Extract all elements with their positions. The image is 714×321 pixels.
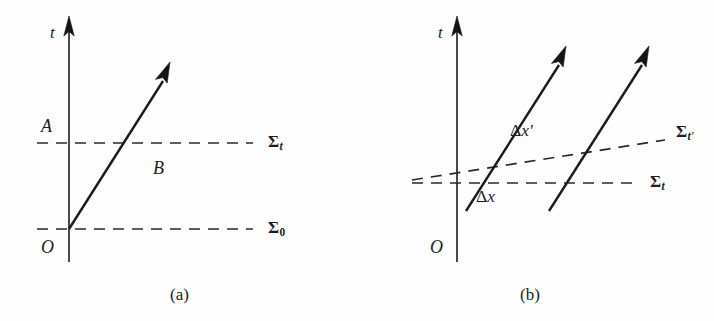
panel-b-origin-label: O (430, 238, 443, 256)
panel-a-point-label-B: B (153, 159, 164, 177)
sigma-glyph-a1: Σ (268, 132, 279, 151)
interval-label-delta-x: Δx (476, 188, 495, 206)
delta-glyph-1: Δ (510, 120, 521, 140)
sigma-glyph-a2: Σ (268, 218, 279, 237)
hypersurface-sigma-t-prime-line (412, 140, 665, 180)
hypersurface-label-sigma-t-b: Σt (650, 173, 665, 193)
figure-container: t A B O Σt Σ0 (a) t O Σt' Σt Δx' Δx (b) (0, 0, 714, 321)
panel-b-caption: (b) (520, 286, 540, 303)
worldline-right-arrowhead (635, 46, 650, 67)
diagram-canvas (0, 0, 714, 321)
sigma-subscript-b2: t (662, 180, 665, 192)
hypersurface-label-sigma-0: Σ0 (268, 219, 285, 239)
panel-a-point-label-A: A (41, 117, 52, 135)
hypersurface-label-sigma-t-a: Σt (268, 133, 283, 153)
delta-glyph-2: Δ (476, 186, 487, 206)
panel-a-geometry (37, 16, 253, 262)
panel-b-axis-label: t (438, 24, 443, 41)
panel-a-axis-label: t (50, 24, 55, 41)
delta-var-2: x (487, 186, 495, 206)
sigma-glyph-b1: Σ (676, 122, 687, 141)
panel-b-geometry (412, 16, 665, 262)
panel-a-origin-label: O (41, 238, 54, 256)
worldline-ob (69, 81, 163, 229)
panel-a-caption: (a) (170, 286, 189, 303)
sigma-subscript-b1: t' (688, 130, 694, 142)
sigma-subscript-a2: 0 (280, 226, 286, 238)
delta-prime-1: ' (529, 120, 533, 140)
delta-var-1: x (521, 120, 529, 140)
sigma-subscript-a1: t (280, 140, 283, 152)
worldline-right (549, 65, 642, 211)
worldline-left-arrowhead (552, 46, 567, 67)
hypersurface-label-sigma-t-prime: Σt' (676, 123, 694, 143)
sigma-glyph-b2: Σ (650, 172, 661, 191)
interval-label-delta-x-prime: Δx' (510, 122, 533, 140)
worldline-ob-arrowhead (156, 62, 171, 83)
